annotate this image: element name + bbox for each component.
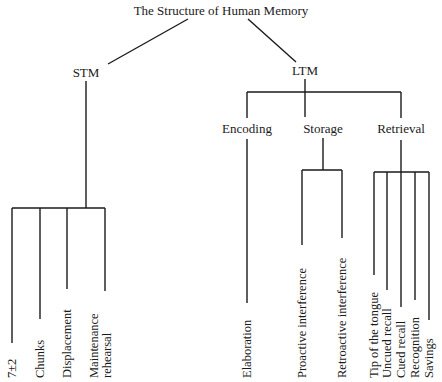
node-retrieval: Retrieval — [377, 121, 425, 136]
node-stm: STM — [73, 65, 100, 80]
connector-title-ltm — [248, 19, 296, 62]
leaf-maintenance: Maintenance — [87, 313, 101, 378]
leaf-savings: Savings — [422, 338, 436, 378]
leaf-cued-recall: Cued recall — [394, 320, 408, 378]
node-ltm: LTM — [292, 63, 319, 78]
leaf-recognition: Recognition — [408, 316, 422, 378]
leaf-displacement: Displacement — [60, 309, 74, 378]
diagram-title: The Structure of Human Memory — [134, 3, 309, 18]
leaf-tip-of-the-tongue: Tip of the tongue — [367, 292, 381, 378]
node-storage: Storage — [303, 121, 343, 136]
leaf-retroactive-interference: Retroactive interference — [335, 257, 349, 378]
connector-title-stm — [108, 19, 188, 64]
tree-svg: The Structure of Human Memory STM 7±2 Ch… — [0, 0, 442, 382]
leaf-rehearsal: rehearsal — [100, 332, 114, 378]
memory-structure-diagram: The Structure of Human Memory STM 7±2 Ch… — [0, 0, 442, 382]
leaf-elaboration: Elaboration — [240, 319, 254, 378]
leaf-7-plus-minus-2: 7±2 — [5, 359, 19, 378]
node-encoding: Encoding — [222, 121, 272, 136]
leaf-chunks: Chunks — [33, 340, 47, 378]
leaf-uncued-recall: Uncued recall — [380, 308, 394, 378]
leaf-proactive-interference: Proactive interference — [295, 268, 309, 378]
